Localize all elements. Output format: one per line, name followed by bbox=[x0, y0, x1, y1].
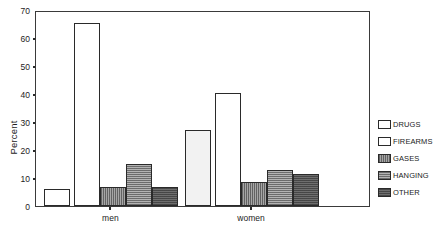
y-tick-label: 50 bbox=[6, 63, 35, 72]
plot-area bbox=[35, 11, 370, 207]
legend-label-hanging: HANGING bbox=[393, 171, 429, 180]
bar-men-drugs bbox=[44, 189, 70, 206]
bar-men-other bbox=[152, 187, 178, 206]
y-tick-label: 30 bbox=[6, 119, 35, 128]
x-tick-mark bbox=[250, 207, 252, 210]
legend-item-other[interactable]: OTHER bbox=[378, 184, 436, 201]
bar-women-drugs bbox=[185, 130, 211, 206]
legend-swatch-other bbox=[378, 188, 391, 197]
legend-item-gases[interactable]: GASES bbox=[378, 150, 436, 167]
y-tick-label: 40 bbox=[6, 91, 35, 100]
legend-item-firearms[interactable]: FIREARMS bbox=[378, 133, 436, 150]
bar-women-gases bbox=[241, 182, 267, 206]
x-group-label: women bbox=[237, 213, 264, 223]
y-tick-label: 20 bbox=[6, 147, 35, 156]
bar-chart: Percent 010203040506070 menwomen DRUGS F… bbox=[0, 0, 436, 237]
legend-swatch-hanging bbox=[378, 171, 391, 180]
legend-swatch-drugs bbox=[378, 120, 391, 129]
y-tick-label: 10 bbox=[6, 175, 35, 184]
legend-swatch-firearms bbox=[378, 137, 391, 146]
y-tick-label: 70 bbox=[6, 7, 35, 16]
legend-item-hanging[interactable]: HANGING bbox=[378, 167, 436, 184]
bar-men-firearms bbox=[74, 23, 100, 206]
y-tick-label: 60 bbox=[6, 35, 35, 44]
bar-men-gases bbox=[100, 187, 126, 206]
x-tick-mark bbox=[109, 207, 111, 210]
y-axis-title: Percent bbox=[8, 108, 19, 168]
legend-label-firearms: FIREARMS bbox=[393, 137, 433, 146]
legend-label-drugs: DRUGS bbox=[393, 120, 421, 129]
bar-women-other bbox=[293, 174, 319, 206]
bar-men-hanging bbox=[126, 164, 152, 206]
legend-label-other: OTHER bbox=[393, 188, 420, 197]
legend: DRUGS FIREARMS GASES HANGING OTHER bbox=[378, 116, 436, 201]
legend-swatch-gases bbox=[378, 154, 391, 163]
bar-women-hanging bbox=[267, 170, 293, 206]
y-tick-label: 0 bbox=[6, 203, 35, 212]
legend-label-gases: GASES bbox=[393, 154, 419, 163]
x-group-label: men bbox=[102, 213, 119, 223]
bar-women-firearms bbox=[215, 93, 241, 206]
legend-item-drugs[interactable]: DRUGS bbox=[378, 116, 436, 133]
